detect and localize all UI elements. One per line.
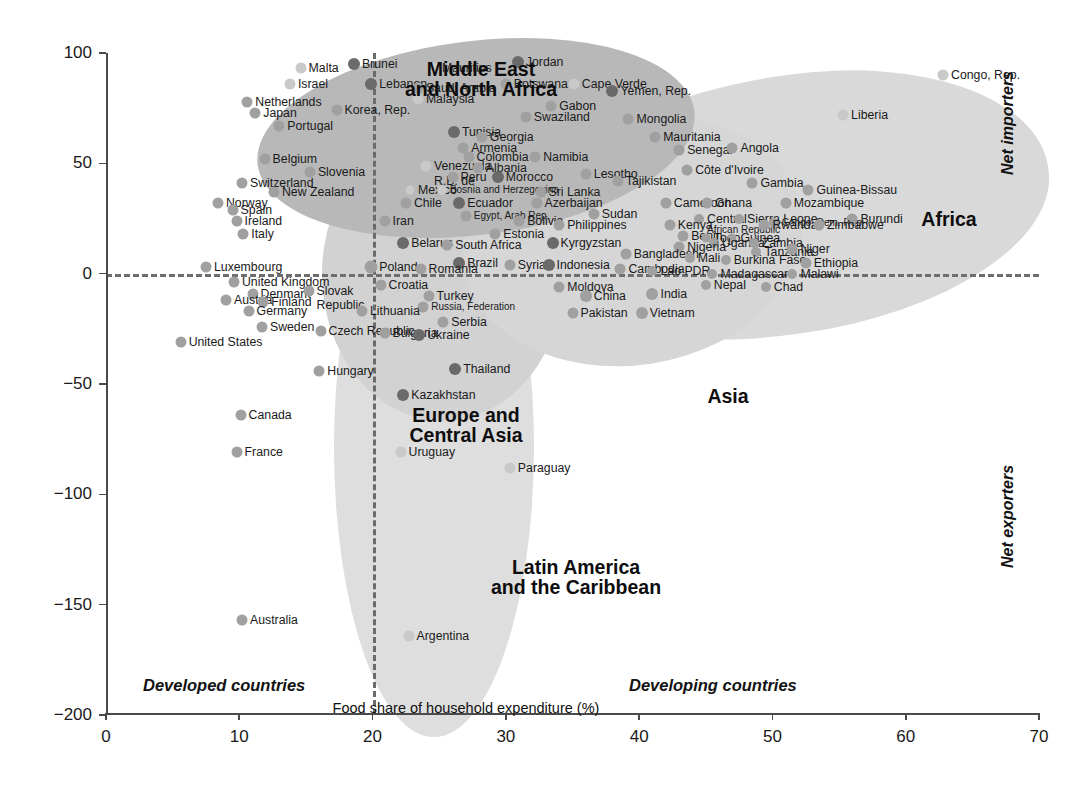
scatter-point[interactable] — [721, 255, 731, 265]
scatter-point[interactable] — [243, 306, 254, 317]
scatter-point[interactable] — [567, 308, 578, 319]
scatter-point[interactable] — [442, 239, 453, 250]
scatter-point[interactable] — [660, 198, 671, 209]
scatter-point[interactable] — [531, 198, 542, 209]
point-label: Yemen, Rep. — [620, 84, 691, 97]
scatter-point[interactable] — [238, 228, 249, 239]
scatter-point[interactable] — [734, 214, 744, 224]
scatter-point[interactable] — [295, 63, 306, 74]
scatter-point[interactable] — [514, 215, 525, 226]
scatter-point[interactable] — [460, 211, 471, 222]
scatter-point[interactable] — [437, 185, 447, 195]
y-tick-mark — [99, 604, 106, 606]
scatter-point[interactable] — [453, 197, 465, 209]
scatter-point[interactable] — [212, 198, 223, 209]
scatter-point[interactable] — [787, 269, 797, 279]
scatter-point[interactable] — [284, 78, 295, 89]
scatter-point[interactable] — [747, 178, 758, 189]
scatter-point[interactable] — [227, 204, 238, 215]
scatter-point[interactable] — [365, 261, 378, 274]
scatter-point[interactable] — [400, 198, 411, 209]
scatter-point[interactable] — [315, 326, 326, 337]
scatter-point[interactable] — [228, 277, 239, 288]
scatter-point[interactable] — [438, 317, 449, 328]
scatter-point[interactable] — [636, 307, 648, 319]
scatter-point[interactable] — [268, 187, 279, 198]
scatter-point[interactable] — [647, 266, 657, 276]
scatter-point[interactable] — [314, 365, 325, 376]
scatter-point[interactable] — [250, 107, 261, 118]
scatter-point[interactable] — [543, 259, 555, 271]
scatter-point[interactable] — [685, 253, 695, 263]
scatter-point[interactable] — [664, 220, 675, 231]
scatter-point[interactable] — [650, 131, 661, 142]
scatter-point[interactable] — [780, 198, 791, 209]
scatter-point[interactable] — [702, 198, 713, 209]
scatter-point[interactable] — [504, 462, 515, 473]
scatter-point[interactable] — [800, 257, 811, 268]
scatter-point[interactable] — [236, 178, 247, 189]
scatter-point[interactable] — [448, 126, 460, 138]
scatter-point[interactable] — [504, 259, 515, 270]
scatter-point[interactable] — [415, 264, 426, 275]
scatter-point[interactable] — [220, 295, 231, 306]
scatter-point[interactable] — [413, 329, 425, 341]
scatter-point[interactable] — [554, 220, 565, 231]
scatter-point[interactable] — [646, 288, 658, 300]
y-tick-label: −150 — [54, 595, 92, 615]
scatter-point[interactable] — [348, 58, 360, 70]
scatter-point[interactable] — [231, 447, 242, 458]
point-label: Ecuador — [467, 197, 513, 210]
scatter-point[interactable] — [615, 264, 626, 275]
scatter-point[interactable] — [701, 280, 711, 290]
scatter-point[interactable] — [397, 237, 409, 249]
scatter-point[interactable] — [606, 85, 618, 97]
scatter-point[interactable] — [814, 220, 825, 231]
scatter-point[interactable] — [375, 279, 386, 290]
scatter-point[interactable] — [759, 220, 770, 231]
scatter-point[interactable] — [530, 151, 541, 162]
scatter-point[interactable] — [520, 111, 531, 122]
scatter-point[interactable] — [420, 160, 431, 171]
scatter-point[interactable] — [803, 184, 814, 195]
scatter-point[interactable] — [682, 164, 693, 175]
scatter-point[interactable] — [274, 120, 285, 131]
scatter-point[interactable] — [200, 262, 211, 273]
scatter-point[interactable] — [365, 78, 377, 90]
scatter-point[interactable] — [395, 447, 406, 458]
point-label: Philippines — [567, 219, 626, 232]
scatter-point[interactable] — [674, 145, 685, 156]
scatter-point[interactable] — [623, 114, 634, 125]
scatter-point[interactable] — [612, 175, 623, 186]
scatter-point[interactable] — [403, 630, 414, 641]
scatter-point[interactable] — [727, 142, 738, 153]
scatter-point[interactable] — [242, 96, 253, 107]
scatter-point[interactable] — [331, 105, 342, 116]
scatter-point[interactable] — [838, 109, 849, 120]
scatter-point[interactable] — [379, 215, 390, 226]
scatter-point[interactable] — [356, 306, 367, 317]
scatter-point[interactable] — [236, 615, 247, 626]
scatter-point[interactable] — [379, 328, 390, 339]
scatter-point[interactable] — [175, 337, 186, 348]
point-label: Pakistan — [581, 307, 628, 320]
scatter-point[interactable] — [397, 389, 409, 401]
scatter-point[interactable] — [447, 171, 458, 182]
scatter-point[interactable] — [761, 282, 771, 292]
scatter-point[interactable] — [259, 153, 270, 164]
scatter-point[interactable] — [620, 248, 631, 259]
scatter-point[interactable] — [580, 169, 591, 180]
scatter-point[interactable] — [568, 78, 579, 89]
scatter-point[interactable] — [547, 237, 559, 249]
scatter-point[interactable] — [235, 409, 246, 420]
scatter-point[interactable] — [231, 215, 242, 226]
scatter-point[interactable] — [580, 290, 592, 302]
scatter-point[interactable] — [449, 363, 461, 375]
scatter-point[interactable] — [405, 185, 414, 194]
scatter-point[interactable] — [492, 171, 504, 183]
x-tick-mark — [1038, 713, 1040, 720]
point-label: Croatia — [389, 278, 429, 291]
scatter-point[interactable] — [938, 70, 949, 81]
scatter-point[interactable] — [554, 281, 565, 292]
scatter-point[interactable] — [256, 321, 267, 332]
